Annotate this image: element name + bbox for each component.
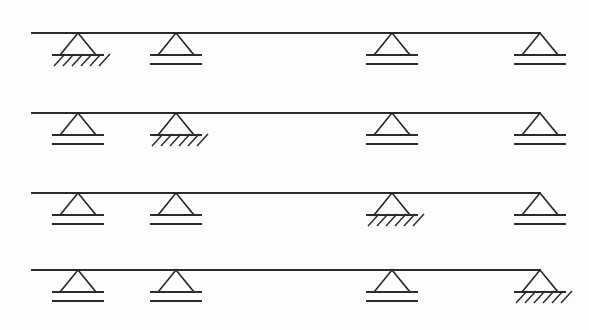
support-triangle	[158, 193, 194, 215]
pinned-support-icon[interactable]: Support B (pinned)	[150, 113, 208, 146]
support-triangle	[374, 33, 410, 55]
support-triangle	[522, 33, 558, 55]
support-triangle	[522, 193, 558, 215]
support-triangle	[158, 33, 194, 55]
roller-support-icon[interactable]: Support A (roller)	[52, 113, 104, 144]
support-triangle	[60, 270, 96, 292]
roller-support-icon[interactable]: Support C (roller)	[366, 33, 418, 64]
pinned-support-icon[interactable]: Support D (pinned)	[514, 270, 572, 303]
beam-row: Support A (pinned)Support B (roller)Supp…	[32, 33, 566, 66]
roller-support-icon[interactable]: Support B (roller)	[150, 193, 202, 224]
beam-diagram-svg: Support A (pinned)Support B (roller)Supp…	[0, 0, 589, 330]
support-triangle	[60, 193, 96, 215]
roller-support-icon[interactable]: Support D (roller)	[514, 113, 566, 144]
roller-support-icon[interactable]: Support D (roller)	[514, 193, 566, 224]
roller-support-icon[interactable]: Support B (roller)	[150, 33, 202, 64]
support-triangle	[374, 113, 410, 135]
beam-row: Support A (roller)Support B (pinned)Supp…	[32, 113, 566, 146]
support-triangle	[60, 113, 96, 135]
roller-support-icon[interactable]: Support D (roller)	[514, 33, 566, 64]
roller-support-icon[interactable]: Support A (roller)	[52, 270, 104, 301]
beam-row: Support A (roller)Support B (roller)Supp…	[32, 270, 572, 303]
diagram-canvas: Support A (pinned)Support B (roller)Supp…	[0, 0, 589, 330]
support-triangle	[374, 193, 410, 215]
support-triangle	[374, 270, 410, 292]
support-triangle	[158, 270, 194, 292]
beam-row: Support A (roller)Support B (roller)Supp…	[32, 193, 566, 226]
roller-support-icon[interactable]: Support B (roller)	[150, 270, 202, 301]
support-triangle	[522, 270, 558, 292]
roller-support-icon[interactable]: Support C (roller)	[366, 270, 418, 301]
support-triangle	[60, 33, 96, 55]
pinned-support-icon[interactable]: Support A (pinned)	[52, 33, 110, 66]
pinned-support-icon[interactable]: Support C (pinned)	[366, 193, 424, 226]
roller-support-icon[interactable]: Support A (roller)	[52, 193, 104, 224]
support-triangle	[522, 113, 558, 135]
support-triangle	[158, 113, 194, 135]
beams-group: Support A (pinned)Support B (roller)Supp…	[32, 33, 572, 303]
roller-support-icon[interactable]: Support C (roller)	[366, 113, 418, 144]
